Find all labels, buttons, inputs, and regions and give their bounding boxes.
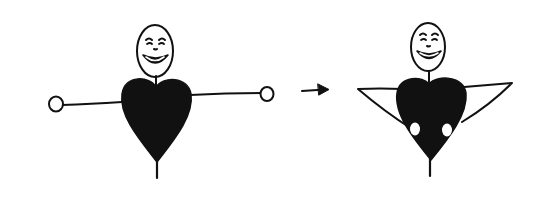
smiling-head-icon: [137, 25, 173, 77]
arrow-right-icon: [302, 84, 329, 95]
smiling-head-icon: [411, 23, 445, 71]
right-arm: [190, 93, 262, 95]
heart-body-icon: [122, 79, 192, 162]
left-hand-icon: [410, 123, 420, 136]
figure-self-hug: [358, 23, 512, 176]
right-arm: [462, 83, 512, 122]
right-hand-icon: [442, 124, 452, 137]
heart-body-icon: [397, 78, 466, 160]
right-hand-icon: [261, 87, 274, 101]
left-hand-icon: [49, 97, 63, 112]
illustration-canvas: [0, 0, 540, 197]
figure-arms-open: [49, 25, 274, 178]
left-arm: [62, 102, 122, 105]
